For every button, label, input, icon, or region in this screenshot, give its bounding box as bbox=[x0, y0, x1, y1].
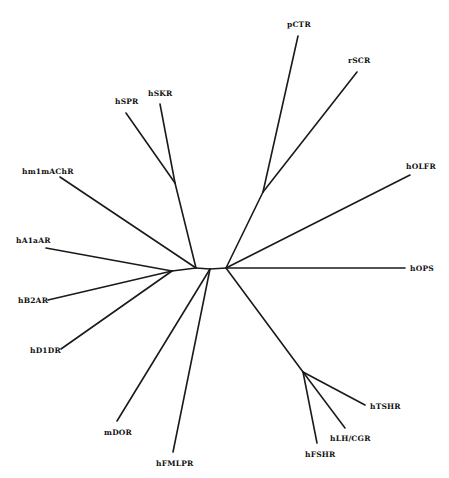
branch-hOLFR bbox=[226, 175, 410, 268]
taxon-label-hspr: hSPR bbox=[115, 97, 139, 106]
taxon-label-hb2ar: hB2AR bbox=[18, 296, 48, 305]
taxon-label-hlhcgr: hLH/CGR bbox=[330, 434, 371, 443]
taxon-label-ha1aar: hA1aAR bbox=[16, 236, 51, 245]
taxon-label-hd1dr: hD1DR bbox=[30, 346, 61, 355]
branch-hA1aAR bbox=[46, 248, 172, 271]
branch-mDOR bbox=[117, 269, 210, 421]
branch-secretin-stem bbox=[226, 192, 263, 268]
taxon-label-mdor: mDOR bbox=[104, 428, 132, 437]
branch-hB2AR bbox=[48, 271, 172, 300]
branch-glycoprotein-stem bbox=[226, 268, 303, 372]
taxon-label-htshr: hTSHR bbox=[370, 402, 401, 411]
branch-hFMLPR bbox=[173, 269, 210, 452]
taxon-label-hskr: hSKR bbox=[148, 89, 172, 98]
branch-left-join bbox=[172, 268, 196, 271]
taxon-label-hfshr: hFSHR bbox=[305, 450, 336, 459]
phylogenetic-tree: pCTR rSCR hSPR hSKR hm1mAChR hOLFR hA1aA… bbox=[0, 0, 449, 478]
branch-center-left-mid bbox=[196, 268, 210, 269]
taxon-label-hfmlpr: hFMLPR bbox=[156, 459, 193, 468]
branch-center-mid-right bbox=[210, 268, 226, 269]
taxon-label-pctr: pCTR bbox=[287, 20, 311, 29]
taxon-label-hops: hOPS bbox=[410, 264, 434, 273]
branch-hTSHR bbox=[303, 372, 365, 405]
taxon-label-hm1machr: hm1mAChR bbox=[22, 167, 74, 176]
taxon-label-rscr: rSCR bbox=[348, 56, 370, 65]
taxon-label-holfr: hOLFR bbox=[406, 162, 436, 171]
branch-hD1DR bbox=[61, 271, 172, 349]
